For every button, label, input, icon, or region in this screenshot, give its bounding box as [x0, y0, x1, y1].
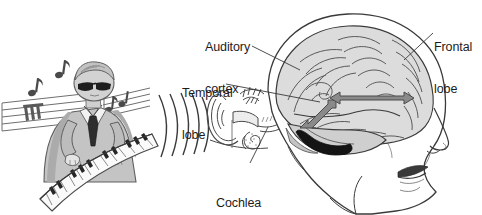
staff-note-glyph-left [23, 103, 44, 121]
label-frontal-lobe-line2: lobe [434, 82, 472, 96]
figure-canvas: Auditory cortex Temporal lobe Frontal lo… [0, 0, 482, 215]
label-temporal-lobe-line2: lobe [182, 128, 233, 142]
label-temporal-lobe-line1: Temporal [182, 86, 233, 100]
label-frontal-lobe-line1: Frontal [434, 40, 472, 54]
label-frontal-lobe: Frontal lobe [434, 12, 472, 124]
label-cochlea: Cochlea [216, 168, 261, 215]
music-note-icon-2 [54, 60, 70, 79]
label-auditory-cortex-line1: Auditory [205, 40, 250, 54]
label-temporal-lobe: Temporal lobe [182, 58, 233, 170]
music-note-icon-1 [27, 78, 43, 97]
cochlea-spiral [242, 132, 260, 149]
label-cochlea-line1: Cochlea [216, 196, 261, 210]
leader-cochlea [250, 127, 268, 163]
